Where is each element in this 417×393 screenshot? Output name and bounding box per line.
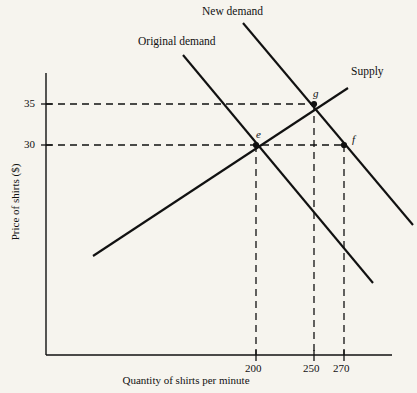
point-label-e: e — [256, 129, 261, 140]
supply-curve — [93, 88, 348, 256]
x-tick-label-270: 270 — [333, 363, 350, 374]
point-marker-f — [341, 142, 347, 148]
x-tick-label-250: 250 — [303, 363, 320, 374]
supply-demand-figure: 35 30 200 250 270 New demand Original de… — [0, 0, 417, 393]
x-tick-label-200: 200 — [245, 363, 262, 374]
x-axis-title: Quantity of shirts per minute — [76, 374, 296, 386]
point-marker-e — [253, 142, 259, 148]
original-demand-label: Original demand — [138, 36, 216, 48]
point-label-f: f — [352, 134, 355, 145]
new-demand-label: New demand — [202, 6, 263, 18]
y-tick-label-35: 35 — [24, 98, 35, 109]
supply-label: Supply — [351, 66, 384, 78]
chart-canvas — [0, 0, 417, 393]
point-label-g: g — [313, 88, 319, 99]
y-tick-label-30: 30 — [24, 139, 35, 150]
new-demand-curve — [243, 23, 413, 225]
y-axis-title: Price of shirts ($) — [9, 137, 21, 267]
point-marker-g — [311, 101, 317, 107]
